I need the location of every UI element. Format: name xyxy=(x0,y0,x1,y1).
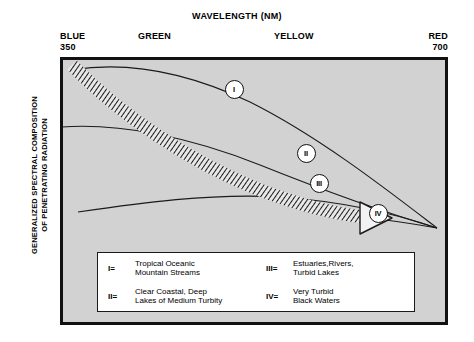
legend-desc-ii: Clear Coastal, Deep Lakes of Medium Turb… xyxy=(135,287,222,306)
legend: I= Tropical Oceanic Mountain Streams II=… xyxy=(97,252,415,312)
spectrum-label-yellow: YELLOW xyxy=(274,31,314,42)
legend-key-ii: II= xyxy=(108,292,128,301)
curve-marker-i: I xyxy=(225,80,244,99)
legend-item-ii: II= Clear Coastal, Deep Lakes of Medium … xyxy=(108,287,256,306)
legend-item-iv: IV= Very Turbid Black Waters xyxy=(266,287,414,306)
curve-marker-iii: III xyxy=(310,174,329,193)
spectrum-label-green: GREEN xyxy=(138,31,171,42)
legend-item-i: I= Tropical Oceanic Mountain Streams xyxy=(108,259,256,278)
legend-desc-i: Tropical Oceanic Mountain Streams xyxy=(135,259,200,278)
legend-column-left: I= Tropical Oceanic Mountain Streams II=… xyxy=(98,259,256,306)
figure: WAVELENGTH (NM) BLUE 350 GREEN YELLOW RE… xyxy=(0,0,474,342)
hatched-band xyxy=(72,65,365,217)
legend-desc-iii: Estuaries,Rivers, Turbid Lakes xyxy=(293,259,353,278)
spectrum-label-red: RED 700 xyxy=(428,31,448,53)
curve-marker-ii: II xyxy=(297,144,316,163)
curve-marker-iv: IV xyxy=(369,204,388,223)
legend-desc-iv: Very Turbid Black Waters xyxy=(293,287,340,306)
chart-title: WAVELENGTH (NM) xyxy=(0,11,474,21)
legend-key-iii: III= xyxy=(266,264,286,273)
legend-key-i: I= xyxy=(108,264,128,273)
legend-column-right: III= Estuaries,Rivers, Turbid Lakes IV= … xyxy=(256,259,414,306)
legend-item-iii: III= Estuaries,Rivers, Turbid Lakes xyxy=(266,259,414,278)
hatched-band-edge-upper xyxy=(72,65,365,217)
y-axis-label: GENERALIZED SPECTRAL COMPOSITION OF PENE… xyxy=(30,75,49,275)
spectrum-label-blue: BLUE 350 xyxy=(60,31,85,53)
legend-key-iv: IV= xyxy=(266,292,286,301)
